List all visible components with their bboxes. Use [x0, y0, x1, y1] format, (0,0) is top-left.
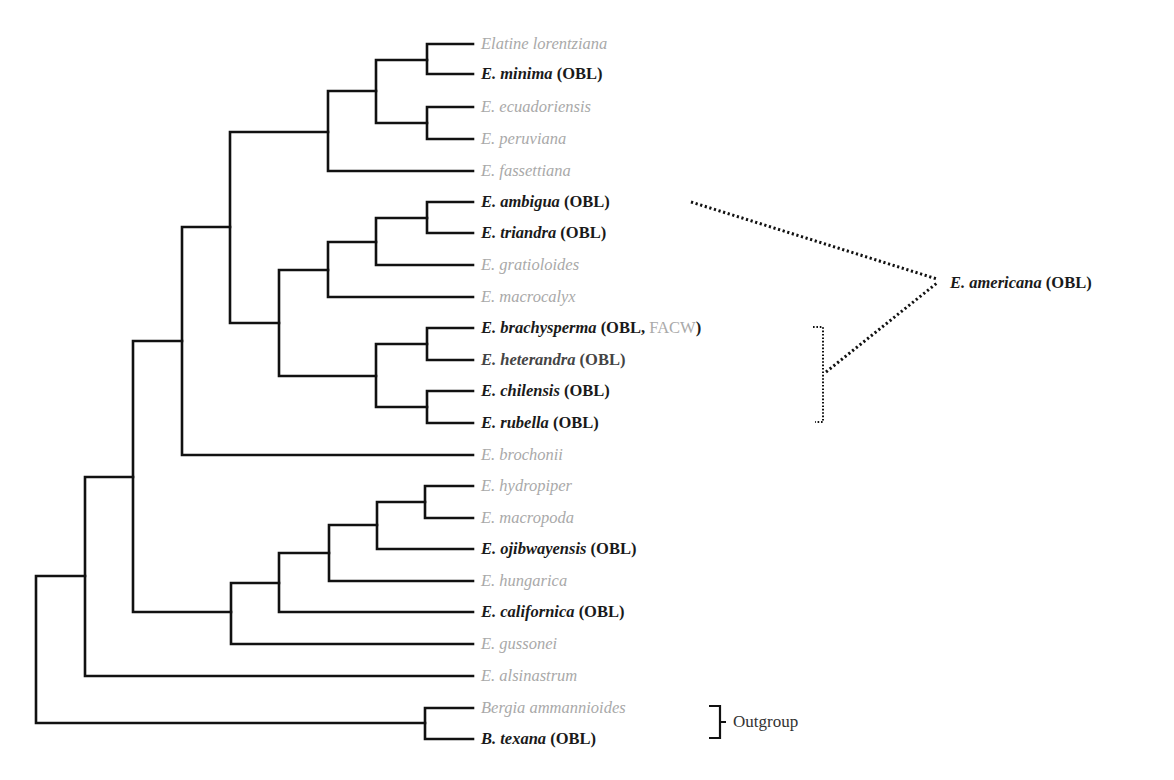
branch	[328, 91, 473, 171]
species-name: E. hydropiper	[481, 476, 572, 495]
status-tag: (OBL)	[580, 350, 626, 369]
leaf-label: E. triandra (OBL)	[481, 224, 606, 242]
species-name: E. macropoda	[481, 508, 574, 527]
species-name: E. macrocalyx	[481, 287, 576, 306]
species-name: E. brochonii	[481, 445, 563, 464]
status-tag: (OBL)	[579, 602, 625, 621]
branch	[376, 344, 427, 407]
status-tag: (OBL)	[591, 539, 637, 558]
branch	[231, 583, 473, 644]
leaf-label: E. gussonei	[481, 635, 557, 653]
leaf-label: Bergia ammannioides	[481, 699, 626, 717]
species-name: E. minima	[481, 64, 553, 83]
leaf-label: E. hydropiper	[481, 477, 572, 495]
leaf-label: B. texana (OBL)	[481, 730, 596, 748]
species-name: E. triandra	[481, 223, 556, 242]
americana-label: E. americana (OBL)	[950, 274, 1092, 292]
species-name: E. hungarica	[481, 571, 567, 590]
species-name: Bergia ammannioides	[481, 698, 626, 717]
bracket-brachysperma-rubella	[813, 327, 823, 422]
branch	[328, 242, 473, 297]
status-tag: (OBL, FACW)	[601, 318, 702, 337]
branch	[329, 525, 473, 581]
dotted-link-ambigua	[691, 202, 937, 279]
branch	[427, 107, 473, 139]
status-tag: (OBL)	[564, 381, 610, 400]
species-name: E. alsinastrum	[481, 666, 577, 685]
tree-branches	[36, 44, 473, 739]
leaf-label: E. brachysperma (OBL, FACW)	[481, 319, 701, 337]
species-name: E. chilensis	[481, 381, 560, 400]
status-tag: (OBL)	[564, 192, 610, 211]
leaf-label: Elatine lorentziana	[481, 35, 607, 53]
status-tag: (OBL)	[550, 729, 596, 748]
branch	[427, 391, 473, 423]
branch	[427, 202, 473, 233]
leaf-label: E. gratioloides	[481, 256, 579, 274]
leaf-label: E. heterandra (OBL)	[481, 351, 625, 369]
leaf-label: E. ambigua (OBL)	[481, 193, 610, 211]
species-name: E. fassettiana	[481, 161, 571, 180]
branch	[425, 708, 473, 739]
leaf-label: E. fassettiana	[481, 162, 571, 180]
leaf-label: E. ojibwayensis (OBL)	[481, 540, 636, 558]
leaf-label: E. macropoda	[481, 509, 574, 527]
species-name: E. peruviana	[481, 129, 566, 148]
leaf-label: E. californica (OBL)	[481, 603, 624, 621]
status-tag: (OBL)	[560, 223, 606, 242]
leaf-label: E. rubella (OBL)	[481, 414, 599, 432]
branch	[427, 44, 473, 74]
leaf-label: E. chilensis (OBL)	[481, 382, 610, 400]
leaf-label: E. hungarica	[481, 572, 567, 590]
species-name: E. heterandra	[481, 350, 575, 369]
species-name: E. ambigua	[481, 192, 560, 211]
leaf-label: E. brochonii	[481, 446, 563, 464]
leaf-label: E. alsinastrum	[481, 667, 577, 685]
status-tag: (OBL)	[1046, 273, 1092, 292]
leaf-label: E. peruviana	[481, 130, 566, 148]
leaf-label: E. ecuadoriensis	[481, 98, 591, 116]
species-name: Elatine lorentziana	[481, 34, 607, 53]
species-name: E. californica	[481, 602, 575, 621]
species-name: E. gratioloides	[481, 255, 579, 274]
species-name: B. texana	[481, 729, 546, 748]
branch	[425, 486, 473, 518]
leaf-label: E. macrocalyx	[481, 288, 576, 306]
status-tag: (OBL)	[553, 413, 599, 432]
branch	[376, 60, 427, 123]
dotted-link-bracket	[826, 283, 937, 372]
branch	[376, 218, 473, 265]
status-tag: (OBL)	[557, 64, 603, 83]
outgroup-bracket	[709, 706, 726, 738]
outgroup-label: Outgroup	[733, 713, 798, 731]
species-name: E. brachysperma	[481, 318, 597, 337]
species-name: E. ojibwayensis	[481, 539, 586, 558]
species-name: E. gussonei	[481, 634, 557, 653]
branch	[279, 553, 473, 612]
americana-dotted-links	[691, 202, 937, 372]
species-name: E. americana	[950, 273, 1042, 292]
species-name: E. rubella	[481, 413, 549, 432]
branch	[427, 328, 473, 360]
species-name: E. ecuadoriensis	[481, 97, 591, 116]
leaf-label: E. minima (OBL)	[481, 65, 603, 83]
